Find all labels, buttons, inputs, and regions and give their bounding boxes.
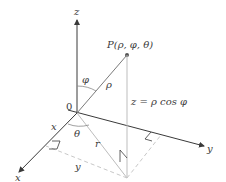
dashed-to-y-axis <box>127 135 161 178</box>
z-axis-label: z <box>73 6 80 17</box>
phi-label: φ <box>82 74 89 85</box>
right-angle-y <box>145 132 152 141</box>
phi-arc <box>77 86 96 91</box>
point-p-label: P(ρ, φ, θ) <box>106 39 153 50</box>
right-angle-vertical <box>120 150 127 162</box>
x-component-label: x <box>51 121 57 132</box>
spherical-coordinates-diagram: z x y 0 ρ φ P(ρ, φ, θ) z = ρ cos φ r θ x… <box>0 0 226 182</box>
theta-label: θ <box>74 128 80 139</box>
r-line <box>77 113 127 178</box>
y-axis-label: y <box>206 143 213 154</box>
origin-label: 0 <box>66 101 72 112</box>
x-axis-label: x <box>15 172 21 182</box>
z-relation-label: z = ρ cos φ <box>130 96 187 107</box>
right-angle-x <box>49 141 60 149</box>
rho-label: ρ <box>105 79 112 90</box>
y-component-label: y <box>74 161 81 172</box>
x-axis <box>19 113 77 172</box>
